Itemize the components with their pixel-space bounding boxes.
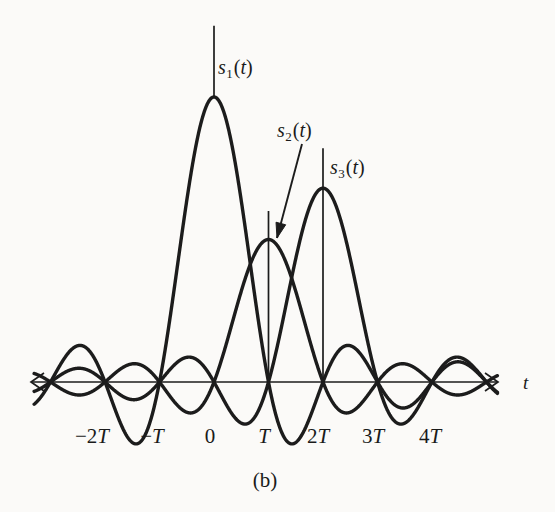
x-tick-label-5: 3T (362, 424, 384, 449)
label-argument: (t) (346, 156, 365, 178)
x-tick-label-0: −2T (75, 424, 109, 449)
x-tick-label-2: 0 (205, 424, 216, 449)
curve-s3t (34, 188, 497, 424)
x-tick-label-6: 4T (419, 424, 441, 449)
x-tick-label-1: −T (140, 424, 164, 449)
label-argument: (t) (293, 119, 312, 141)
figure-panel-b: s1(t) s2(t) s3(t) −2T−T0T2T3T4T t (b) (0, 0, 555, 512)
curve-label-s3: s3(t) (330, 156, 365, 182)
s2-pointer-arrow (276, 144, 302, 238)
label-symbol: s (330, 156, 338, 178)
curve-label-s2: s2(t) (277, 119, 312, 145)
label-subscript: 2 (285, 129, 293, 144)
pointer-arrowhead (276, 222, 286, 238)
label-subscript: 1 (226, 66, 234, 81)
x-tick-label-3: T (258, 424, 270, 449)
label-argument: (t) (234, 56, 253, 78)
panel-caption: (b) (253, 468, 278, 493)
label-symbol: s (277, 119, 285, 141)
x-axis-label: t (523, 372, 528, 394)
label-subscript: 3 (338, 166, 346, 181)
curve-group (34, 97, 497, 444)
x-tick-label-4: 2T (307, 424, 329, 449)
label-symbol: s (218, 56, 226, 78)
curve-label-s1: s1(t) (218, 56, 253, 82)
